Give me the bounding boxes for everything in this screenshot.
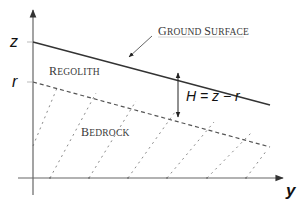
ground-surface-label: GROUND SURFACE: [158, 24, 249, 38]
diagram-svg: z r y GROUND SURFACE REGOLITH BEDROCK H …: [0, 0, 306, 211]
bedrock-label: BEDROCK: [81, 125, 129, 139]
r-level-label: r: [12, 73, 18, 90]
thickness-formula: H = z − r: [186, 88, 241, 104]
regolith-label: REGOLITH: [49, 64, 100, 78]
regolith-diagram: z r y GROUND SURFACE REGOLITH BEDROCK H …: [0, 0, 306, 211]
y-axis-label: y: [285, 181, 297, 200]
z-axis-label: z: [9, 33, 18, 50]
ground-surface-leader: [129, 36, 152, 57]
